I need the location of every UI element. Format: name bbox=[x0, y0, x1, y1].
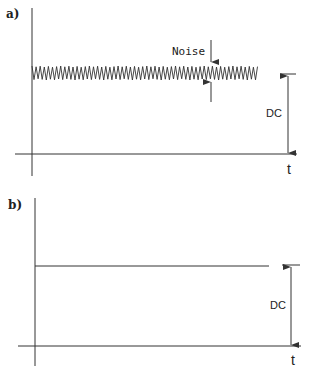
panel-a: a) Noise DC t bbox=[6, 7, 297, 177]
panel-a-label: a) bbox=[6, 7, 19, 21]
noise-waveform bbox=[32, 66, 258, 80]
time-label-a: t bbox=[287, 161, 291, 177]
dc-label-b: DC bbox=[270, 299, 286, 311]
panel-b: b) DC t bbox=[8, 198, 301, 367]
noise-label: Noise bbox=[172, 45, 205, 58]
time-label-b: t bbox=[291, 352, 295, 367]
dc-label-a: DC bbox=[266, 107, 282, 119]
panel-b-label: b) bbox=[8, 198, 22, 212]
diagram-canvas: a) Noise DC t b) DC t bbox=[0, 0, 314, 367]
